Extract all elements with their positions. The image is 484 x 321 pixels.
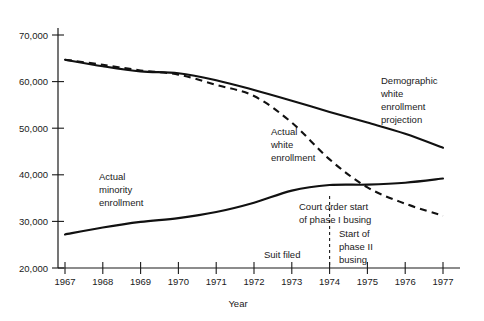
y-label-50000: 50,000 xyxy=(19,123,48,134)
annot-demographic-line4: projection xyxy=(381,114,422,125)
annot-phase-two-line2: phase II xyxy=(339,241,373,252)
enrollment-trend-figure: 70,000 60,000 50,000 40,000 30,000 20,00… xyxy=(0,0,484,321)
annotation-actual-minority-enrollment: Actual minority enrollment xyxy=(99,171,144,208)
annot-actual-minority-line3: enrollment xyxy=(99,197,144,208)
axes-group xyxy=(58,28,460,268)
annot-actual-minority-line2: minority xyxy=(99,184,133,195)
annot-actual-minority-line1: Actual xyxy=(99,171,125,182)
x-label-1974: 1974 xyxy=(319,276,340,287)
annot-demographic-line3: enrollment xyxy=(381,101,426,112)
x-label-1969: 1969 xyxy=(130,276,151,287)
annot-court-order-line1: Court order start xyxy=(299,201,369,212)
annotation-actual-white-enrollment: Actual white enrollment xyxy=(270,126,316,163)
annotation-suit-filed: Suit filed xyxy=(264,249,300,260)
x-axis-title: Year xyxy=(228,298,247,309)
x-label-1967: 1967 xyxy=(54,276,75,287)
annot-actual-white-line2: white xyxy=(270,139,293,150)
annot-phase-two-line1: Start of xyxy=(339,228,370,239)
y-label-20000: 20,000 xyxy=(19,263,48,274)
x-label-1975: 1975 xyxy=(357,276,378,287)
x-label-1968: 1968 xyxy=(92,276,113,287)
annotation-start-phase-ii-busing: Start of phase II busing xyxy=(339,228,373,265)
x-label-1976: 1976 xyxy=(395,276,416,287)
annotation-court-order-phase-i: Court order start of phase I busing xyxy=(299,201,371,225)
annot-actual-white-line3: enrollment xyxy=(271,152,316,163)
annot-demographic-line1: Demographic xyxy=(381,75,438,86)
x-label-1972: 1972 xyxy=(243,276,264,287)
line-chart-canvas: 70,000 60,000 50,000 40,000 30,000 20,00… xyxy=(0,0,484,321)
annot-suit-filed-line1: Suit filed xyxy=(264,249,300,260)
annot-actual-white-line1: Actual xyxy=(271,126,297,137)
annot-phase-two-line3: busing xyxy=(339,254,367,265)
annotation-demographic-white-projection: Demographic white enrollment projection xyxy=(380,75,438,125)
x-label-1971: 1971 xyxy=(206,276,227,287)
y-tick-labels: 70,000 60,000 50,000 40,000 30,000 20,00… xyxy=(19,30,48,274)
y-label-40000: 40,000 xyxy=(19,169,48,180)
y-label-30000: 30,000 xyxy=(19,216,48,227)
x-label-1970: 1970 xyxy=(168,276,189,287)
y-label-70000: 70,000 xyxy=(19,30,48,41)
annot-court-order-line2: of phase I busing xyxy=(299,214,371,225)
x-label-1973: 1973 xyxy=(281,276,302,287)
y-label-60000: 60,000 xyxy=(19,76,48,87)
annot-demographic-line2: white xyxy=(380,88,403,99)
x-label-1977: 1977 xyxy=(432,276,453,287)
x-tick-labels: 1967 1968 1969 1970 1971 1972 1973 1974 … xyxy=(54,276,453,287)
